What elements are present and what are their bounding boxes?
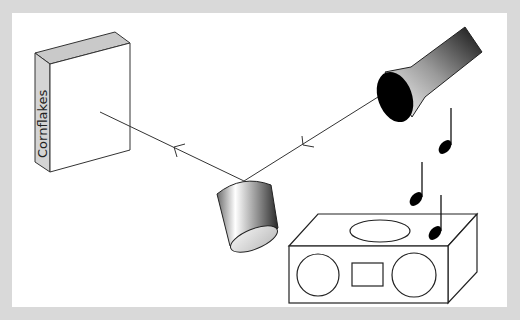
light-rays xyxy=(100,97,378,181)
cereal-box: Cornflakes xyxy=(35,32,130,172)
arrow-icon xyxy=(302,136,314,147)
radio-left-speaker xyxy=(297,254,339,296)
radio-display xyxy=(352,263,383,286)
flashlight xyxy=(370,27,482,127)
radio-top-speaker xyxy=(350,220,410,242)
music-note-icon xyxy=(436,108,454,156)
music-note-icon xyxy=(407,162,425,208)
radio xyxy=(289,214,477,303)
radio-right-speaker xyxy=(392,253,436,297)
box-front-face xyxy=(50,43,130,172)
mirror-cup xyxy=(217,181,281,258)
incident-ray xyxy=(244,97,378,181)
diagram-svg: Cornflakes xyxy=(0,0,520,320)
box-label: Cornflakes xyxy=(35,89,50,158)
